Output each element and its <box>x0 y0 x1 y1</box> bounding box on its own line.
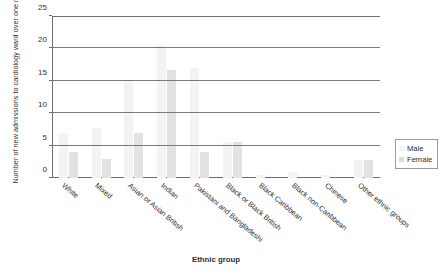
y-axis-tick-mark <box>49 112 52 113</box>
x-axis-tick-cell: Other ethnic groups <box>347 180 380 240</box>
x-axis-tick-label: Mixed <box>93 181 114 201</box>
x-axis-tick-cell: Black non-Caribbean <box>282 180 315 240</box>
bar-female <box>200 152 209 178</box>
x-axis-tick-cell: Chinese <box>314 180 347 240</box>
bar-female <box>167 70 176 178</box>
bar-group <box>52 16 85 178</box>
legend-item[interactable]: Female <box>399 154 432 165</box>
y-axis-tick-mark <box>49 47 52 48</box>
x-axis-tick-cell: White <box>52 180 85 240</box>
bar-female <box>364 160 373 178</box>
bar-female <box>134 133 143 178</box>
legend-label: Female <box>407 154 432 165</box>
chart-legend: MaleFemale <box>395 139 438 169</box>
bar-male <box>256 175 265 178</box>
x-axis-tick-label: Chinese <box>323 181 350 205</box>
y-axis-tick-label: 15 <box>38 67 52 76</box>
bar-male <box>223 142 232 178</box>
x-axis-tick-labels: WhiteMixedAsian or Asian BritishIndianPa… <box>52 180 380 240</box>
bar-male <box>124 81 133 178</box>
bar-group <box>347 16 380 178</box>
y-axis-title: Number of new admissions to cardiology w… <box>2 0 28 190</box>
x-axis-tick-cell: Pakistani and Bangladeshi <box>183 180 216 240</box>
y-axis-title-text: Number of new admissions to cardiology w… <box>11 7 20 183</box>
plot-area: 0510152025 <box>52 16 380 178</box>
legend-swatch-female <box>399 157 404 162</box>
x-axis-title: Ethnic group <box>52 255 380 264</box>
x-axis-tick-cell: Mixed <box>85 180 118 240</box>
gridline <box>52 112 380 113</box>
bar-female <box>233 142 242 178</box>
bar-male <box>190 68 199 178</box>
bar-group <box>282 16 315 178</box>
y-axis-tick-mark <box>49 177 52 178</box>
legend-swatch-male <box>399 146 404 151</box>
bar-male <box>92 128 101 178</box>
bar-female <box>102 159 111 178</box>
bar-group <box>150 16 183 178</box>
bar-chart: Number of new admissions to cardiology w… <box>0 0 448 276</box>
gridline <box>52 145 380 146</box>
x-axis-tick-label: Other ethnic groups <box>356 181 412 230</box>
gridline <box>52 47 380 48</box>
y-axis-tick-mark <box>49 80 52 81</box>
bar-group <box>183 16 216 178</box>
gridline <box>52 80 380 81</box>
bar-male <box>354 160 363 178</box>
x-axis-tick-cell: Black or Black British <box>216 180 249 240</box>
y-axis-tick-label: 5 <box>43 132 52 141</box>
bar-group <box>249 16 282 178</box>
bar-group <box>85 16 118 178</box>
y-axis-tick-mark <box>49 15 52 16</box>
bar-male <box>59 133 68 178</box>
x-axis-tick-label: Indian <box>159 181 180 201</box>
y-axis-tick-label: 20 <box>38 35 52 44</box>
x-axis-tick-label: White <box>61 181 81 200</box>
y-axis-tick-label: 0 <box>43 165 52 174</box>
y-axis-tick-mark <box>49 145 52 146</box>
y-axis-tick-label: 10 <box>38 100 52 109</box>
legend-label: Male <box>407 143 423 154</box>
legend-item[interactable]: Male <box>399 143 432 154</box>
x-axis-tick-cell: Black Caribbean <box>249 180 282 240</box>
x-axis-tick-cell: Asian or Asian British <box>118 180 151 240</box>
bar-group <box>118 16 151 178</box>
bar-female <box>69 152 78 178</box>
bar-male <box>288 172 297 178</box>
bar-male <box>321 175 330 178</box>
bars-layer <box>52 16 380 178</box>
bar-group <box>216 16 249 178</box>
bar-group <box>314 16 347 178</box>
y-axis-tick-label: 25 <box>38 3 52 12</box>
x-axis-tick-cell: Indian <box>150 180 183 240</box>
